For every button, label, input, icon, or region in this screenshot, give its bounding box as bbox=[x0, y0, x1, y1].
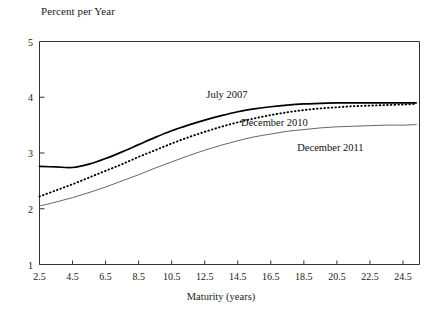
series-line bbox=[40, 125, 417, 206]
series-label: July 2007 bbox=[206, 89, 247, 100]
x-tick-label: 10.5 bbox=[163, 271, 181, 282]
x-axis-label: Maturity (years) bbox=[0, 291, 442, 302]
y-tick-label: 2 bbox=[13, 203, 33, 214]
x-tick-label: 14.5 bbox=[229, 271, 247, 282]
x-tick-label: 24.5 bbox=[394, 271, 412, 282]
x-tick-label: 4.5 bbox=[66, 271, 79, 282]
series-label: December 2010 bbox=[241, 117, 308, 128]
x-tick-label: 6.5 bbox=[99, 271, 112, 282]
y-tick-label: 5 bbox=[13, 36, 33, 47]
yield-curve-figure: Percent per Year 2.54.56.58.510.512.514.… bbox=[0, 0, 442, 319]
y-tick-label: 3 bbox=[13, 148, 33, 159]
x-tick-label: 8.5 bbox=[132, 271, 145, 282]
x-tick-label: 18.5 bbox=[295, 271, 313, 282]
x-tick-label: 22.5 bbox=[361, 271, 379, 282]
x-tick-label: 12.5 bbox=[196, 271, 214, 282]
series-line bbox=[40, 103, 417, 168]
y-tick-label: 4 bbox=[13, 92, 33, 103]
x-tick-label: 20.5 bbox=[328, 271, 346, 282]
series-lines bbox=[40, 103, 417, 206]
series-label: December 2011 bbox=[297, 142, 363, 153]
x-tick-label: 16.5 bbox=[262, 271, 280, 282]
x-tick-label: 2.5 bbox=[33, 271, 46, 282]
y-tick-label: 1 bbox=[13, 259, 33, 270]
